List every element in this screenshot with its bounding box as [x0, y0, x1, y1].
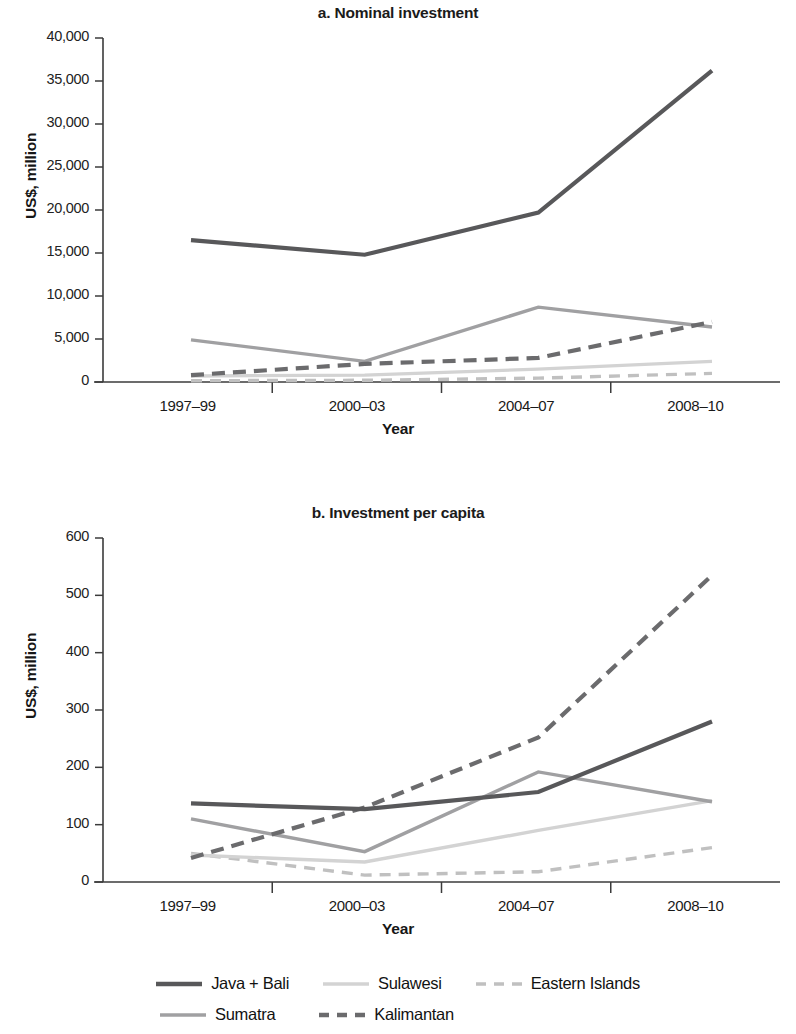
series-line — [191, 772, 712, 852]
x-tick-label: 2000–03 — [287, 897, 427, 914]
figure-investment-trends: a. Nominal investment US$, million Year … — [0, 0, 796, 1034]
series-line — [191, 71, 712, 255]
series-line — [191, 307, 712, 361]
x-tick-label: 2008–10 — [625, 397, 765, 414]
x-tick-label: 2000–03 — [287, 397, 427, 414]
series-line — [191, 848, 712, 876]
x-tick-label: 1997–99 — [118, 397, 258, 414]
series-line — [191, 721, 712, 809]
y-tick-label: 25,000 — [0, 157, 89, 173]
y-tick-label: 300 — [0, 700, 89, 716]
legend-item-java-bali: Java + Bali — [156, 974, 289, 993]
legend-swatch-icon — [156, 977, 202, 991]
legend-item-sumatra: Sumatra — [160, 1005, 275, 1024]
x-tick-label: 2004–07 — [456, 397, 596, 414]
legend-row: SumatraKalimantan — [0, 999, 796, 1030]
chart-legend: Java + BaliSulawesiEastern IslandsSumatr… — [0, 968, 796, 1030]
panel-a-plot-area — [0, 0, 796, 400]
y-tick-label: 0 — [0, 372, 89, 388]
panel-a-x-axis-title: Year — [0, 420, 796, 438]
series-line — [191, 801, 712, 862]
x-tick-label: 1997–99 — [118, 897, 258, 914]
legend-swatch-icon — [323, 977, 369, 991]
y-tick-label: 500 — [0, 585, 89, 601]
y-tick-label: 0 — [0, 872, 89, 888]
legend-label: Java + Bali — [211, 974, 289, 993]
legend-label: Kalimantan — [374, 1005, 454, 1024]
y-tick-label: 100 — [0, 815, 89, 831]
legend-item-kalimantan: Kalimantan — [319, 1005, 454, 1024]
y-tick-label: 20,000 — [0, 200, 89, 216]
legend-swatch-icon — [476, 977, 522, 991]
legend-item-sulawesi: Sulawesi — [323, 974, 442, 993]
legend-swatch-icon — [319, 1008, 365, 1022]
x-tick-label: 2008–10 — [625, 897, 765, 914]
legend-label: Eastern Islands — [531, 974, 640, 993]
legend-label: Sulawesi — [378, 974, 442, 993]
legend-item-eastern-islands: Eastern Islands — [476, 974, 640, 993]
y-tick-label: 600 — [0, 528, 89, 544]
series-line — [191, 361, 712, 376]
y-tick-label: 35,000 — [0, 71, 89, 87]
y-tick-label: 40,000 — [0, 28, 89, 44]
chart-panel-nominal-investment: a. Nominal investment US$, million Year … — [0, 0, 796, 460]
panel-b-plot-area — [0, 500, 796, 900]
y-tick-label: 30,000 — [0, 114, 89, 130]
legend-row: Java + BaliSulawesiEastern Islands — [0, 968, 796, 999]
legend-label: Sumatra — [215, 1005, 275, 1024]
chart-panel-investment-per-capita: b. Investment per capita US$, million Ye… — [0, 500, 796, 955]
y-tick-label: 10,000 — [0, 286, 89, 302]
y-tick-label: 15,000 — [0, 243, 89, 259]
y-tick-label: 400 — [0, 643, 89, 659]
x-tick-label: 2004–07 — [456, 897, 596, 914]
y-tick-label: 200 — [0, 757, 89, 773]
legend-swatch-icon — [160, 1008, 206, 1022]
panel-b-x-axis-title: Year — [0, 920, 796, 938]
y-tick-label: 5,000 — [0, 329, 89, 345]
